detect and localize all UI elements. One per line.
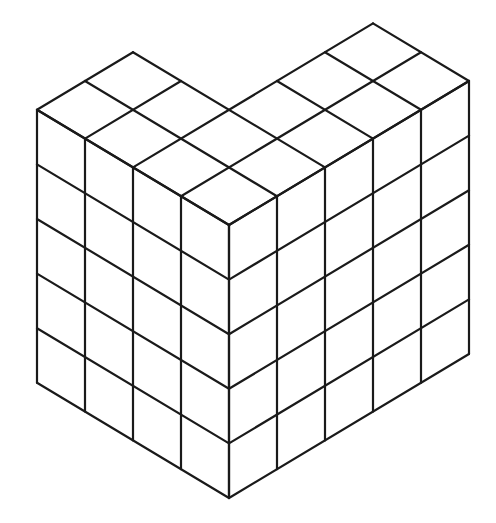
right-face-horizontal-edge [229,354,469,498]
top-grid-edge [229,81,469,225]
top-face [37,23,469,225]
right-face-horizontal-edge [229,299,469,443]
top-grid-edge [133,23,373,167]
right-face-horizontal-edge [229,136,469,280]
cube-stack-diagram [0,0,496,523]
right-face-horizontal-edge [229,190,469,334]
top-grid-edge [181,52,421,196]
right-face [229,81,469,498]
right-face-horizontal-edge [229,245,469,389]
